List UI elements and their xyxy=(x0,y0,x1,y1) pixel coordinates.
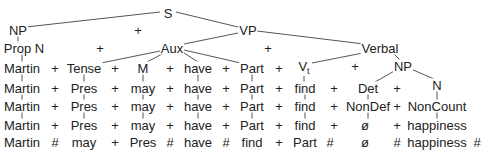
operator-symbol: + xyxy=(110,119,120,132)
node-text: + xyxy=(330,118,338,133)
tree-node-label: have xyxy=(183,119,213,132)
operator-symbol: + xyxy=(165,100,175,113)
operator-symbol: + xyxy=(110,82,120,95)
tree-node-label: may xyxy=(130,119,157,132)
node-text: may xyxy=(131,81,156,96)
node-text: have xyxy=(184,135,212,150)
node-text: Verbal xyxy=(362,41,399,56)
operator-symbol: + xyxy=(50,82,60,95)
operator-symbol: + xyxy=(274,62,284,75)
operator-symbol: + xyxy=(110,62,120,75)
node-text: Pres xyxy=(71,81,98,96)
node-text: + xyxy=(222,61,230,76)
operator-symbol: + xyxy=(274,136,284,149)
tree-node-label: N xyxy=(431,79,442,92)
node-text: Part xyxy=(240,99,264,114)
node-text: V xyxy=(298,59,307,74)
node-text: + xyxy=(51,61,59,76)
node-text: # xyxy=(326,135,333,150)
node-text: # xyxy=(166,135,173,150)
operator-symbol: + xyxy=(392,119,402,132)
tree-edge xyxy=(96,51,160,64)
operator-symbol: + xyxy=(95,42,105,55)
operator-symbol: + xyxy=(221,62,231,75)
operator-symbol: # xyxy=(392,136,401,149)
node-text: happiness xyxy=(407,135,466,150)
operator-symbol: + xyxy=(50,62,60,75)
operator-symbol: + xyxy=(50,119,60,132)
tree-node-label: may xyxy=(71,136,98,149)
operator-symbol: + xyxy=(221,82,231,95)
tree-node-label: Tense xyxy=(66,62,103,75)
tree-node-label: Martin xyxy=(3,100,41,113)
tree-node-label: may xyxy=(130,100,157,113)
node-text: find xyxy=(295,118,316,133)
tree-node-label: S xyxy=(163,7,174,20)
node-text: Aux xyxy=(161,41,183,56)
node-text: + xyxy=(275,81,283,96)
node-text: Pres xyxy=(71,118,98,133)
operator-symbol: + xyxy=(274,100,284,113)
operator-symbol: # xyxy=(472,136,481,149)
tree-node-label: M xyxy=(137,62,150,75)
node-text: + xyxy=(222,81,230,96)
node-text: ø xyxy=(361,118,369,133)
node-text: # xyxy=(393,135,400,150)
node-text: N xyxy=(432,78,441,93)
operator-symbol: + xyxy=(50,100,60,113)
tree-node-label: Martin xyxy=(3,119,41,132)
tree-node-label: Prop N xyxy=(3,42,45,55)
tree-node-label: ø xyxy=(360,136,370,149)
node-text: Prop N xyxy=(4,41,44,56)
node-text: find xyxy=(295,99,316,114)
node-text: Tense xyxy=(67,61,102,76)
operator-symbol: + xyxy=(329,100,339,113)
node-text: + xyxy=(222,99,230,114)
operator-symbol: # xyxy=(50,136,59,149)
node-text: + xyxy=(330,81,338,96)
tree-node-label: Part xyxy=(292,136,318,149)
node-text: + xyxy=(275,99,283,114)
node-text: + xyxy=(51,99,59,114)
tree-node-label: Aux xyxy=(160,42,184,55)
node-text: Martin xyxy=(4,61,40,76)
node-text: M xyxy=(138,61,149,76)
tree-node-label: NP xyxy=(8,24,28,37)
operator-symbol: + xyxy=(110,100,120,113)
node-text: + xyxy=(222,118,230,133)
tree-node-label: find xyxy=(294,119,317,132)
node-text: + xyxy=(51,118,59,133)
tree-node-label: find xyxy=(241,136,264,149)
operator-symbol: + xyxy=(329,82,339,95)
node-text: # xyxy=(51,135,58,150)
node-text: + xyxy=(96,41,104,56)
operator-symbol: + xyxy=(221,119,231,132)
tree-edge xyxy=(257,31,364,44)
tree-node-label: Martin xyxy=(3,82,41,95)
node-text: NonCount xyxy=(408,99,467,114)
tree-node-label: Part xyxy=(239,62,265,75)
node-text: NP xyxy=(394,59,412,74)
operator-symbol: + xyxy=(133,24,143,37)
tree-node-label: find xyxy=(294,82,317,95)
node-text: Det xyxy=(358,81,378,96)
node-text: happiness xyxy=(407,118,466,133)
node-text: Pres xyxy=(71,99,98,114)
tree-node-label: Verbal xyxy=(361,42,400,55)
tree-node-label: happiness xyxy=(406,119,467,132)
tree-node-label: find xyxy=(294,100,317,113)
operator-symbol: + xyxy=(350,60,360,73)
tree-node-label: Martin xyxy=(3,136,41,149)
tree-node-label: have xyxy=(183,82,213,95)
tree-node-label: Pres xyxy=(70,119,99,132)
node-text: + xyxy=(275,61,283,76)
tree-node-label: NP xyxy=(393,60,413,73)
tree-node-label: Pres xyxy=(129,136,158,149)
node-text: find xyxy=(242,135,263,150)
tree-edge xyxy=(176,12,238,27)
node-text: Martin xyxy=(4,118,40,133)
tree-node-label: NonCount xyxy=(407,100,468,113)
tree-node-label: have xyxy=(183,62,213,75)
operator-symbol: + xyxy=(329,119,339,132)
node-text: + xyxy=(166,81,174,96)
